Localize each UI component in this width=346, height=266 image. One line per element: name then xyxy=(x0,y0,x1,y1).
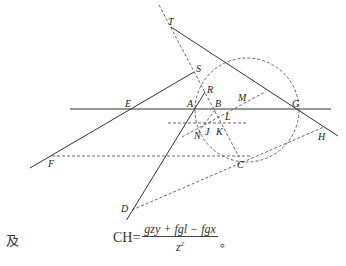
label-M: M xyxy=(237,92,247,103)
formula-denominator: z2 xyxy=(176,237,184,254)
formula-fraction: gzy + fgl − fgx z2 xyxy=(142,222,218,254)
label-G: G xyxy=(292,98,299,109)
label-D: D xyxy=(120,203,129,214)
label-T: T xyxy=(168,16,175,27)
label-K: K xyxy=(215,126,224,137)
formula-numerator: gzy + fgl − fgx xyxy=(142,222,218,237)
label-L: L xyxy=(224,111,231,122)
label-S: S xyxy=(196,63,201,74)
formula-end: 。 xyxy=(220,233,232,251)
label-A: A xyxy=(186,98,194,109)
label-B: B xyxy=(215,98,221,109)
formula: CH = gzy + fgl − fgx z2 。 xyxy=(113,222,232,254)
geometry-figure: T S R E A B M G L N J K H F C D xyxy=(0,0,346,220)
label-J: J xyxy=(205,126,210,137)
label-R: R xyxy=(206,84,213,95)
denominator-exponent: 2 xyxy=(181,240,185,248)
label-C: C xyxy=(237,159,244,170)
dashed-circle xyxy=(195,58,299,162)
line-DH xyxy=(132,127,324,210)
line-SF xyxy=(30,72,194,168)
line-TH xyxy=(171,27,338,136)
formula-equals: = xyxy=(132,230,140,246)
label-E: E xyxy=(124,98,131,109)
label-N: N xyxy=(193,130,202,141)
formula-lhs: CH xyxy=(113,230,132,246)
label-F: F xyxy=(47,158,55,169)
caption-prefix: 及 xyxy=(6,230,19,249)
label-H: H xyxy=(317,131,326,142)
